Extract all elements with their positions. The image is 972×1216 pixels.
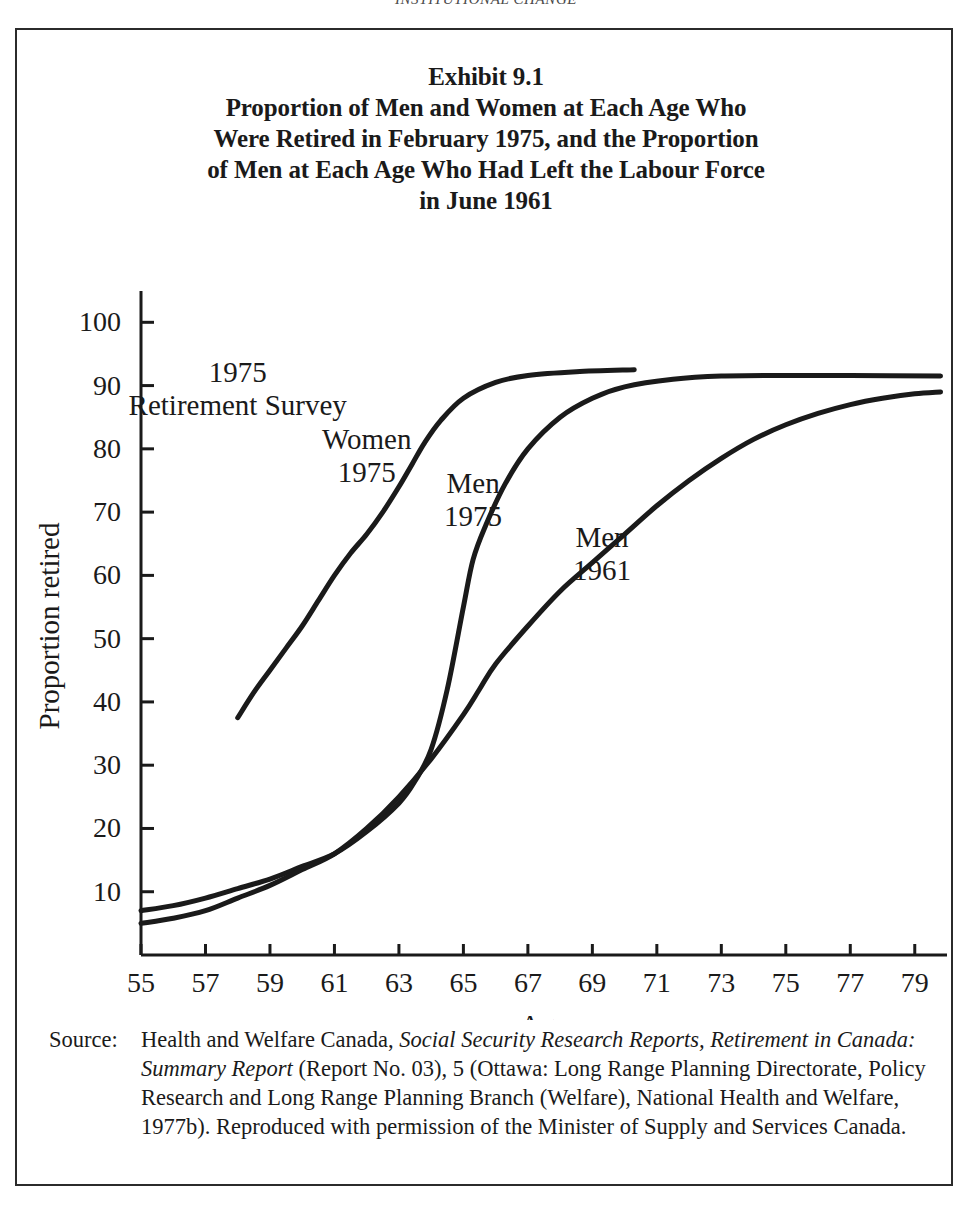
- y-tick-label-90: 90: [93, 370, 121, 401]
- x-tick-label-67: 67: [514, 967, 542, 998]
- women-1975-label-line-1: Women: [322, 423, 412, 455]
- figure-title-line-5: in June 1961: [17, 185, 955, 216]
- men-1975-label-line-2: 1975: [444, 500, 502, 532]
- x-tick-label-69: 69: [578, 967, 606, 998]
- figure-title-line-4: of Men at Each Age Who Had Left the Labo…: [17, 154, 955, 185]
- y-tick-label-80: 80: [93, 433, 121, 464]
- x-tick-label-57: 57: [191, 967, 219, 998]
- figure-title-line-1: Exhibit 9.1: [17, 61, 955, 92]
- x-tick-label-77: 77: [836, 967, 864, 998]
- source-note: Source: Health and Welfare Canada, Socia…: [49, 1025, 929, 1141]
- x-tick-label-75: 75: [772, 967, 800, 998]
- men-1961-label: Men1961: [573, 521, 631, 586]
- survey-label-line-1: 1975: [209, 356, 267, 388]
- y-axis-label: Proportion retired: [33, 522, 65, 729]
- y-tick-label-100: 100: [79, 306, 121, 337]
- y-tick-label-60: 60: [93, 559, 121, 590]
- men-1975-label-line-1: Men: [446, 467, 500, 499]
- x-tick-label-71: 71: [643, 967, 671, 998]
- running-head: INSTITUTIONAL CHANGE: [0, 0, 972, 8]
- y-tick-label-40: 40: [93, 686, 121, 717]
- men-1975-label: Men1975: [444, 467, 502, 532]
- y-tick-label-10: 10: [93, 876, 121, 907]
- x-tick-label-65: 65: [449, 967, 477, 998]
- y-tick-label-70: 70: [93, 496, 121, 527]
- figure-title: Exhibit 9.1 Proportion of Men and Women …: [17, 61, 955, 216]
- y-tick-label-30: 30: [93, 749, 121, 780]
- series-line-men-1961: [141, 392, 941, 923]
- x-tick-label-73: 73: [707, 967, 735, 998]
- x-axis-label: Age: [520, 1009, 568, 1020]
- source-label: Source:: [49, 1025, 141, 1054]
- women-1975-label: Women1975: [322, 423, 412, 488]
- x-tick-label-79: 79: [901, 967, 929, 998]
- x-tick-label-61: 61: [320, 967, 348, 998]
- men-1961-label-line-1: Men: [575, 521, 629, 553]
- x-tick-label-63: 63: [385, 967, 413, 998]
- survey-label-line-2: Retirement Survey: [129, 389, 348, 421]
- x-tick-label-55: 55: [127, 967, 155, 998]
- line-chart: 1020304050607080901005557596163656769717…: [17, 230, 955, 1020]
- chart-svg: 1020304050607080901005557596163656769717…: [17, 230, 955, 1020]
- source-segment-0: Health and Welfare Canada,: [141, 1027, 399, 1052]
- women-1975-label-line-2: 1975: [338, 456, 396, 488]
- source-text: Health and Welfare Canada, Social Securi…: [141, 1025, 929, 1141]
- men-1961-label-line-2: 1961: [573, 554, 631, 586]
- series-line-men-1975: [141, 375, 941, 910]
- figure-title-line-2: Proportion of Men and Women at Each Age …: [17, 92, 955, 123]
- x-tick-label-59: 59: [256, 967, 284, 998]
- figure-title-line-3: Were Retired in February 1975, and the P…: [17, 123, 955, 154]
- y-tick-label-20: 20: [93, 812, 121, 843]
- y-tick-label-50: 50: [93, 623, 121, 654]
- figure-frame: Exhibit 9.1 Proportion of Men and Women …: [15, 28, 953, 1186]
- survey-label: 1975Retirement Survey: [129, 356, 348, 421]
